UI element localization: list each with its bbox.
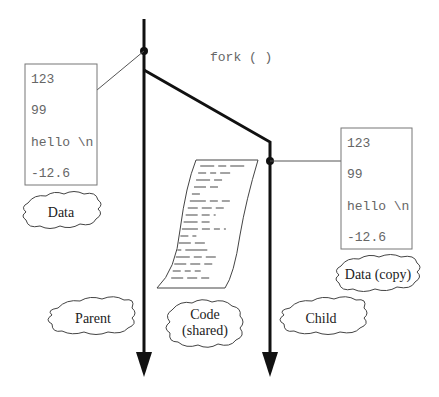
parent-data-value: -12.6 (31, 166, 70, 181)
fork-label: fork ( ) (210, 50, 272, 65)
child-data-value: 123 (347, 136, 370, 151)
parent-data-value: 123 (31, 72, 54, 87)
parent-arrowhead-icon (136, 352, 152, 377)
code-label-line1: Code (190, 307, 220, 322)
parent-data-connector (97, 51, 144, 90)
child-cloud: Child (280, 297, 367, 335)
parent-label: Parent (75, 311, 111, 326)
child-label: Child (305, 311, 336, 326)
parent-data-cloud: Data (23, 192, 101, 229)
child-data-box: 123 99 hello \n -12.6 (341, 128, 412, 249)
code-cloud: Code (shared) (166, 300, 243, 348)
child-data-value: 99 (347, 167, 363, 182)
child-data-label: Data (copy) (345, 267, 412, 283)
parent-data-value: 99 (31, 103, 47, 118)
parent-data-box: 123 99 hello \n -12.6 (25, 64, 97, 185)
parent-data-label: Data (48, 205, 75, 220)
parent-cloud: Parent (48, 297, 135, 335)
parent-data-value: hello \n (31, 135, 93, 150)
fork-diagram: fork ( ) 123 99 hello \n -12.6 123 99 he… (0, 0, 439, 397)
code-scroll-icon (157, 160, 258, 288)
code-label-line2: (shared) (182, 323, 228, 339)
child-data-value: -12.6 (347, 230, 386, 245)
child-arrowhead-icon (262, 352, 278, 377)
child-data-value: hello \n (347, 199, 409, 214)
